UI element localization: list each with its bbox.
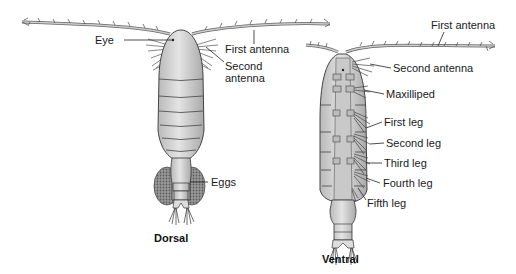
label-first-leg: First leg <box>384 116 423 128</box>
ventral-first-antenna <box>306 41 495 52</box>
label-ventral-first-antenna: First antenna <box>431 19 495 31</box>
label-dorsal-first-antenna: First antenna <box>225 43 289 55</box>
label-third-leg: Third leg <box>384 157 427 169</box>
label-fifth-leg: Fifth leg <box>367 197 406 209</box>
label-dorsal-second-antenna-line1: Second <box>225 60 262 72</box>
eye-dot <box>172 39 174 41</box>
caption-dorsal: Dorsal <box>154 232 188 244</box>
dorsal-cephalothorax <box>158 30 204 162</box>
label-fourth-leg: Fourth leg <box>383 177 433 189</box>
label-second-leg: Second leg <box>386 137 441 149</box>
label-maxilliped: Maxilliped <box>386 88 435 100</box>
caption-ventral: Ventral <box>322 253 359 265</box>
fourth-leg-leader <box>366 178 380 183</box>
second-leg-leader <box>370 143 384 144</box>
maxilliped-leader <box>364 90 384 94</box>
ventral-first-antenna-leader <box>438 32 444 46</box>
ventral-copepod <box>306 41 495 265</box>
label-eggs: Eggs <box>211 176 236 188</box>
label-eye: Eye <box>95 34 114 46</box>
label-dorsal-second-antenna-line2: antenna <box>225 72 265 84</box>
dorsal-caudal-setae <box>169 208 194 225</box>
label-ventral-second-antenna: Second antenna <box>393 62 473 74</box>
dorsal-second-antenna-leader <box>206 47 224 62</box>
ventral-urosome <box>330 200 356 240</box>
